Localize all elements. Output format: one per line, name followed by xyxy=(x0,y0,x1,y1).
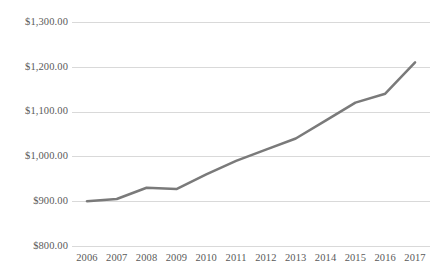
x-tick-label: 2007 xyxy=(102,252,132,272)
x-tick-label: 2016 xyxy=(370,252,400,272)
y-tick-label: $1,000.00 xyxy=(0,150,68,161)
x-tick-label: 2017 xyxy=(400,252,430,272)
y-tick-label: $900.00 xyxy=(0,195,68,206)
x-tick-label: 2013 xyxy=(281,252,311,272)
x-tick-label: 2009 xyxy=(161,252,191,272)
y-tick-label: $800.00 xyxy=(0,240,68,251)
x-tick-label: 2010 xyxy=(191,252,221,272)
x-tick-label: 2008 xyxy=(132,252,162,272)
y-tick-label: $1,200.00 xyxy=(0,61,68,72)
y-tick-label: $1,100.00 xyxy=(0,105,68,116)
x-tick-label: 2015 xyxy=(340,252,370,272)
gridline xyxy=(72,246,430,247)
y-tick-label: $1,300.00 xyxy=(0,16,68,27)
x-tick-label: 2011 xyxy=(221,252,251,272)
x-tick-label: 2006 xyxy=(72,252,102,272)
x-tick-label: 2012 xyxy=(251,252,281,272)
x-axis: 2006 2007 2008 2009 2010 2011 2012 2013 … xyxy=(72,252,430,272)
series-polyline xyxy=(87,62,415,201)
data-series-line xyxy=(72,22,430,246)
x-tick-label: 2014 xyxy=(311,252,341,272)
line-chart: $1,300.00 $1,200.00 $1,100.00 $1,000.00 … xyxy=(0,0,446,278)
y-axis: $1,300.00 $1,200.00 $1,100.00 $1,000.00 … xyxy=(0,0,68,278)
plot-area xyxy=(72,22,430,246)
